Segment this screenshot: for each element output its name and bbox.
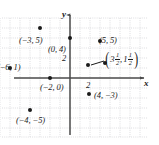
callout-leader-line [91, 61, 104, 65]
data-point [87, 92, 91, 96]
data-point [48, 76, 52, 80]
y-numerator: 1 [128, 52, 132, 58]
close-paren: ) [134, 52, 138, 66]
y-fraction: 1 2 [128, 52, 132, 66]
data-point [28, 108, 32, 112]
point-label-neg2-0: (−2, 0) [40, 83, 63, 92]
data-point [38, 26, 42, 30]
data-point-fraction [86, 63, 90, 67]
open-paren: ( [105, 52, 109, 66]
x-mixed-number: 3 1 2 [110, 52, 120, 66]
point-label-neg6-1: (−6, 1) [0, 63, 20, 72]
x-whole-part: 3 [110, 55, 114, 64]
point-label-neg4-neg5: (−4, −5) [16, 116, 45, 125]
point-label-neg3-5: (−3, 5) [19, 36, 42, 45]
x-axis-tick-2: 2 [86, 81, 90, 90]
point-label-5-5: (5, 5) [99, 36, 117, 45]
point-label-0-4: (0, 4) [48, 45, 66, 54]
coordinate-plane-figure: y x 2 2 (−3, 5) (0, 4) (5, 5) (−6, 1) (−… [0, 0, 159, 145]
point-label-fraction: ( 3 1 2 , 1 1 2 ) [104, 52, 139, 66]
coordinate-separator: , [120, 55, 122, 64]
y-axis-label: y [62, 10, 66, 19]
x-axis-label: x [144, 79, 149, 88]
y-denominator: 2 [128, 60, 132, 66]
point-label-4-neg3: (4, −3) [94, 91, 117, 100]
y-axis-tick-2: 2 [62, 54, 66, 63]
y-mixed-number: 1 1 2 [123, 52, 133, 66]
y-whole-part: 1 [123, 55, 127, 64]
data-point [68, 36, 72, 40]
